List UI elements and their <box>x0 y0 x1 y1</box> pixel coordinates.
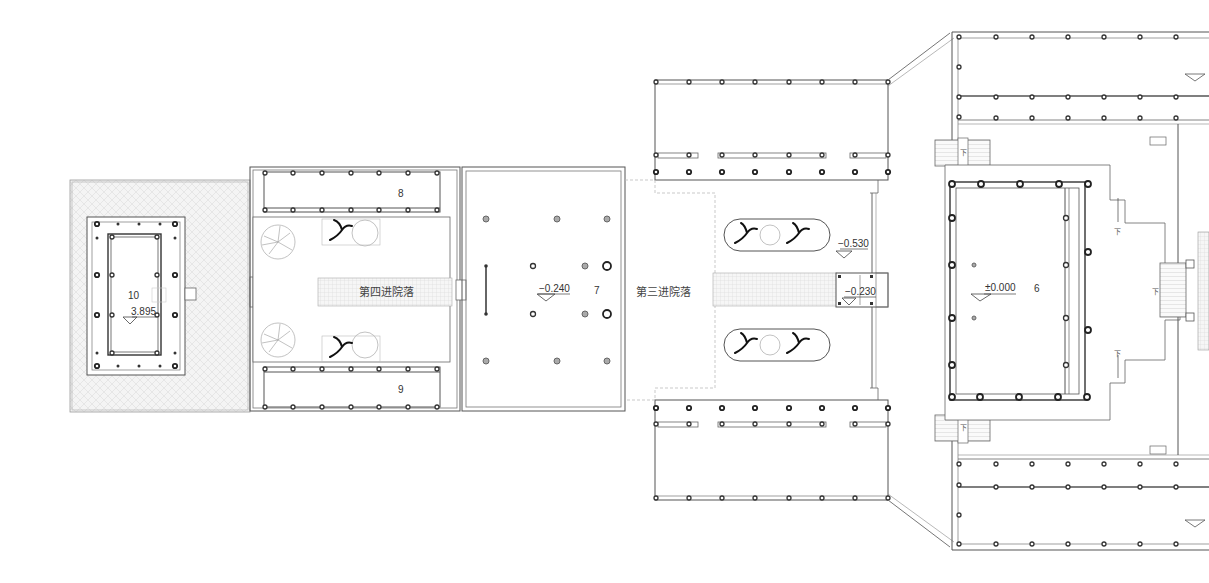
elevation-third-courtyard: −0.530 <box>838 238 869 249</box>
elevation-gate: −0.230 <box>845 286 876 297</box>
floor-plan: 10 3.895 8 9 第四进院落 <box>0 0 1209 583</box>
svg-text:下: 下 <box>1114 228 1121 236</box>
elevation-10: 3.895 <box>131 306 156 317</box>
hall-6-complex: 下 下 ±0.000 6 <box>935 32 1209 550</box>
building-10: 10 3.895 <box>70 180 250 412</box>
elevation-6: ±0.000 <box>985 282 1016 293</box>
hall-7: −0.240 7 <box>462 167 625 411</box>
elevation-marker: −0.240 <box>537 283 570 301</box>
room-label-7: 7 <box>594 285 600 296</box>
fourth-courtyard-block: 8 9 第四进院落 <box>250 167 466 411</box>
svg-text:下: 下 <box>1152 288 1159 296</box>
svg-text:下: 下 <box>1114 350 1121 358</box>
third-courtyard-block: 第三进院落 −0.530 −0.230 <box>625 33 954 547</box>
svg-text:下: 下 <box>960 424 967 432</box>
column-grid <box>654 406 890 500</box>
courtyard-label-third: 第三进院落 <box>636 285 691 299</box>
gate: −0.230 <box>836 273 888 307</box>
room-label-9: 9 <box>398 384 404 395</box>
stairs <box>1160 263 1186 317</box>
courtyard-path <box>713 273 837 306</box>
room-label-8: 8 <box>398 188 404 199</box>
svg-text:下: 下 <box>960 149 967 157</box>
room-label-6: 6 <box>1034 283 1040 294</box>
column-grid <box>654 80 890 174</box>
elevation-marker: −0.530 <box>836 238 869 258</box>
room-label-10: 10 <box>128 290 140 301</box>
courtyard-label-fourth: 第四进院落 <box>359 285 414 299</box>
elevation-7: −0.240 <box>539 283 570 294</box>
